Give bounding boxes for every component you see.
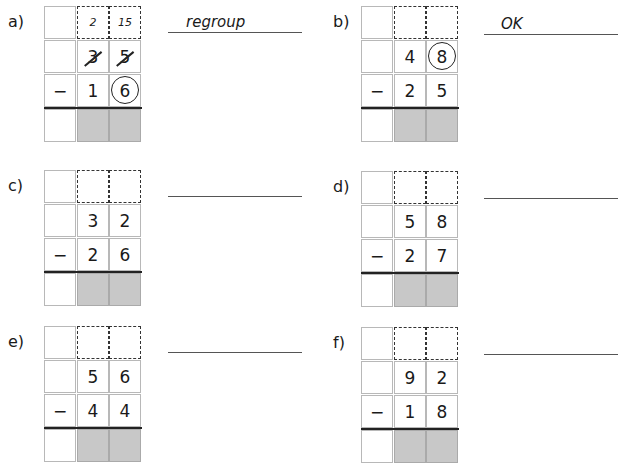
ones-carry-cell[interactable] bbox=[109, 170, 141, 203]
subtraction-grid: 9 2 − 1 8 bbox=[361, 327, 459, 463]
answer-tens-cell[interactable] bbox=[77, 109, 109, 142]
answer-line[interactable] bbox=[168, 196, 302, 197]
answer-line[interactable] bbox=[484, 34, 618, 35]
empty-cell bbox=[361, 171, 393, 204]
top-tens-cell: 3 bbox=[77, 204, 109, 237]
problem-label: b) bbox=[333, 12, 349, 31]
subtraction-grid: 5 6 − 4 4 bbox=[44, 326, 142, 462]
answer-tens-cell[interactable] bbox=[77, 429, 109, 462]
bottom-ones-cell: 8 bbox=[426, 395, 458, 428]
empty-cell bbox=[361, 6, 393, 39]
top-ones-cell: 2 bbox=[109, 204, 141, 237]
ones-carry-cell[interactable] bbox=[109, 326, 141, 359]
ones-carry-cell[interactable] bbox=[426, 6, 458, 39]
ones-carry-cell[interactable] bbox=[426, 327, 458, 360]
problem-label: c) bbox=[8, 176, 23, 195]
operator-cell: − bbox=[44, 238, 76, 271]
bottom-ones-cell: 4 bbox=[109, 394, 141, 427]
tens-carry-cell[interactable]: 2 bbox=[77, 6, 109, 39]
operator-cell: − bbox=[361, 239, 393, 272]
top-tens-cell: 5 bbox=[77, 360, 109, 393]
subtraction-grid: 4 8 − 2 5 bbox=[361, 6, 459, 142]
bottom-tens-cell: 2 bbox=[77, 238, 109, 271]
bottom-ones-cell: 7 bbox=[426, 239, 458, 272]
top-tens-cell: 4 bbox=[394, 40, 426, 73]
tens-carry-cell[interactable] bbox=[394, 171, 426, 204]
answer-ones-cell[interactable] bbox=[426, 430, 458, 463]
operator-cell: − bbox=[44, 394, 76, 427]
answer-text: OK bbox=[501, 15, 523, 33]
problem-label: f) bbox=[333, 333, 345, 352]
answer-tens-cell[interactable] bbox=[394, 274, 426, 307]
answer-line[interactable] bbox=[168, 352, 302, 353]
answer-empty-cell bbox=[44, 429, 76, 462]
bottom-tens-cell: 1 bbox=[77, 74, 109, 107]
answer-line[interactable] bbox=[484, 354, 618, 355]
problem-b: b) 4 8 − 2 5 OK bbox=[333, 6, 633, 146]
problem-e: e) 5 6 − 4 4 bbox=[8, 326, 308, 466]
problem-a: a) 2 15 3 5 − 1 6 regroup bbox=[8, 6, 308, 146]
tens-carry-cell[interactable] bbox=[394, 327, 426, 360]
empty-cell bbox=[361, 361, 393, 394]
answer-line[interactable] bbox=[168, 32, 302, 33]
bottom-tens-cell: 2 bbox=[394, 74, 426, 107]
tens-carry-cell[interactable] bbox=[77, 170, 109, 203]
answer-ones-cell[interactable] bbox=[109, 429, 141, 462]
empty-cell bbox=[361, 327, 393, 360]
answer-empty-cell bbox=[44, 109, 76, 142]
answer-empty-cell bbox=[44, 273, 76, 306]
subtraction-grid: 5 8 − 2 7 bbox=[361, 171, 459, 307]
bottom-tens-cell: 1 bbox=[394, 395, 426, 428]
operator-cell: − bbox=[44, 74, 76, 107]
empty-cell bbox=[44, 40, 76, 73]
answer-tens-cell[interactable] bbox=[394, 430, 426, 463]
empty-cell bbox=[361, 205, 393, 238]
problem-c: c) 3 2 − 2 6 bbox=[8, 170, 308, 310]
answer-ones-cell[interactable] bbox=[426, 109, 458, 142]
answer-ones-cell[interactable] bbox=[109, 273, 141, 306]
top-tens-cell: 9 bbox=[394, 361, 426, 394]
subtraction-grid: 3 2 − 2 6 bbox=[44, 170, 142, 306]
answer-ones-cell[interactable] bbox=[109, 109, 141, 142]
answer-tens-cell[interactable] bbox=[394, 109, 426, 142]
bottom-tens-cell: 4 bbox=[77, 394, 109, 427]
answer-empty-cell bbox=[361, 274, 393, 307]
empty-cell bbox=[44, 170, 76, 203]
operator-cell: − bbox=[361, 74, 393, 107]
empty-cell bbox=[44, 326, 76, 359]
ones-carry-cell[interactable] bbox=[426, 171, 458, 204]
ones-carry-cell[interactable]: 15 bbox=[109, 6, 141, 39]
bottom-ones-cell: 6 bbox=[109, 238, 141, 271]
bottom-tens-cell: 2 bbox=[394, 239, 426, 272]
tens-carry-cell[interactable] bbox=[77, 326, 109, 359]
empty-cell bbox=[44, 204, 76, 237]
problem-label: a) bbox=[8, 12, 24, 31]
circle-mark bbox=[111, 76, 139, 104]
bottom-ones-cell: 5 bbox=[426, 74, 458, 107]
problem-label: e) bbox=[8, 332, 24, 351]
tens-carry-cell[interactable] bbox=[394, 6, 426, 39]
top-ones-cell: 6 bbox=[109, 360, 141, 393]
problem-d: d) 5 8 − 2 7 bbox=[333, 171, 633, 311]
answer-text: regroup bbox=[186, 13, 245, 31]
problem-f: f) 9 2 − 1 8 bbox=[333, 327, 633, 467]
operator-cell: − bbox=[361, 395, 393, 428]
top-ones-cell: 8 bbox=[426, 205, 458, 238]
empty-cell bbox=[361, 40, 393, 73]
answer-empty-cell bbox=[361, 430, 393, 463]
empty-cell bbox=[44, 360, 76, 393]
answer-empty-cell bbox=[361, 109, 393, 142]
answer-ones-cell[interactable] bbox=[426, 274, 458, 307]
subtraction-grid: 2 15 3 5 − 1 6 bbox=[44, 6, 142, 142]
empty-cell bbox=[44, 6, 76, 39]
answer-tens-cell[interactable] bbox=[77, 273, 109, 306]
top-ones-cell: 2 bbox=[426, 361, 458, 394]
answer-line[interactable] bbox=[484, 198, 618, 199]
problem-label: d) bbox=[333, 177, 349, 196]
circle-mark bbox=[428, 42, 456, 70]
top-tens-cell: 5 bbox=[394, 205, 426, 238]
